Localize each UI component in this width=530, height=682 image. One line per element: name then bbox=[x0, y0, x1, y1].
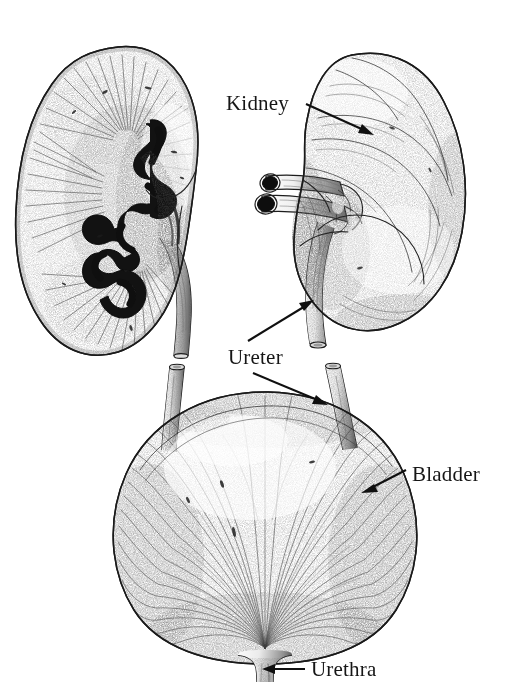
label-kidney: Kidney bbox=[226, 91, 289, 115]
label-urethra: Urethra bbox=[311, 657, 377, 681]
label-bladder: Bladder bbox=[412, 462, 480, 486]
label-ureter: Ureter bbox=[228, 345, 283, 369]
anatomy-figure: Kidney Ureter Bladder Urethra bbox=[0, 0, 530, 682]
urinary-system-illustration: Kidney Ureter Bladder Urethra bbox=[0, 0, 530, 682]
